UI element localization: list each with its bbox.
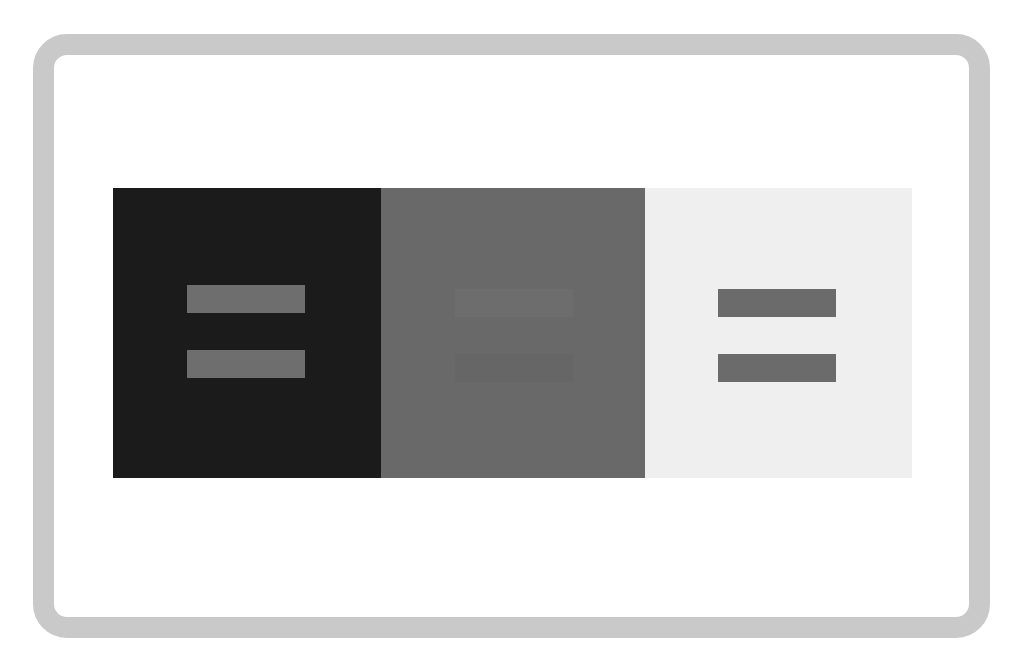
light-panel-bottom-bar: [718, 354, 836, 382]
dark-panel: [113, 188, 381, 478]
light-panel: [645, 188, 912, 478]
mid-gray-panel-bottom-bar: [455, 354, 573, 382]
mid-gray-panel: [381, 188, 645, 478]
contrast-panels: [113, 188, 912, 478]
dark-panel-bottom-bar: [187, 350, 305, 378]
mid-gray-panel-top-bar: [455, 289, 573, 317]
dark-panel-top-bar: [187, 285, 305, 313]
light-panel-top-bar: [718, 289, 836, 317]
